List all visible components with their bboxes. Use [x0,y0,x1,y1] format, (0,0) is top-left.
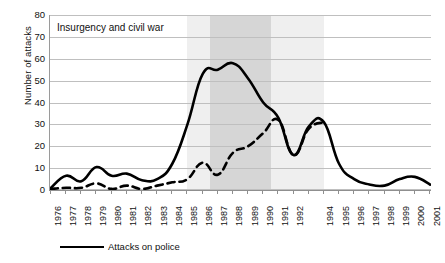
x-axis-tick-label: 1986 [205,206,214,226]
x-axis-tick [353,190,354,194]
series-line-attacks-on-police [51,63,430,188]
x-axis-tick [65,190,66,194]
x-axis-tick-label: 1988 [235,206,244,226]
x-axis-tick-label: 2001 [433,206,442,226]
x-axis-tick [171,190,172,194]
x-axis-tick [126,190,127,194]
y-axis-tick-label: 60 [27,54,45,64]
x-axis-tick-label: 1977 [69,206,78,226]
x-axis-tick [308,190,309,194]
x-axis-tick-label: 1996 [357,206,366,226]
x-axis-tick [232,190,233,194]
y-axis-tick-label: 50 [27,76,45,86]
x-axis-tick [80,190,81,194]
x-axis-tick [217,190,218,194]
legend-item-label: Attacks on police [108,241,180,252]
x-axis-tick-label: 1995 [342,206,351,226]
x-axis-tick-label: 1983 [160,206,169,226]
x-axis-tick-label: 1984 [175,206,184,226]
x-axis-tick-label: 1979 [99,206,108,226]
series-lines [50,15,431,190]
y-axis-tick-label: 20 [27,141,45,151]
y-axis-tick-label: 80 [27,10,45,20]
y-axis-tick-label: 40 [27,98,45,108]
x-axis-tick [384,190,385,194]
x-axis-tick-label: 1982 [144,206,153,226]
x-axis-line [49,190,431,191]
x-axis-tick [202,190,203,194]
legend-line-swatch-icon [60,246,104,248]
y-axis-tick-labels: 80706050403020100 [24,0,45,263]
x-axis-tick [50,190,51,194]
x-axis-tick [141,190,142,194]
x-axis-tick-label: 1985 [190,206,199,226]
x-axis-tick [111,190,112,194]
x-axis-tick-label: 1980 [114,206,123,226]
chart-container: Number of attacks 80706050403020100 Insu… [0,0,445,263]
x-axis-tick-label: 1994 [326,206,335,226]
x-axis-tick-label: 1989 [251,206,260,226]
x-axis-tick [323,190,324,194]
x-axis-tick [399,190,400,194]
x-axis-tick [262,190,263,194]
x-axis-tick-label: 1999 [402,206,411,226]
x-axis-tick-label: 1981 [129,206,138,226]
x-axis-tick-label: 1978 [84,206,93,226]
x-axis-tick-label: 1991 [281,206,290,226]
x-axis-tick-label: 1990 [266,206,275,226]
x-axis-tick [429,190,430,194]
y-axis-tick-label: 10 [27,163,45,173]
plot-area: Insurgency and civil war [49,15,431,190]
x-axis-tick-label: 1997 [372,206,381,226]
x-axis-tick [277,190,278,194]
legend: Attacks on police [60,241,180,252]
x-axis-tick-label: 1976 [54,206,63,226]
x-axis-tick-label: 1987 [220,206,229,226]
x-axis-tick [414,190,415,194]
x-axis-tick [247,190,248,194]
y-axis-tick-label: 0 [27,185,45,195]
plot-title: Insurgency and civil war [57,22,164,33]
x-axis-tick [186,190,187,194]
x-axis-tick [293,190,294,194]
x-axis-tick-label: 1998 [387,206,396,226]
x-axis-tick [95,190,96,194]
x-axis-tick [338,190,339,194]
x-axis-tick-label: 1992 [296,206,305,226]
x-axis-tick [156,190,157,194]
x-axis-tick [368,190,369,194]
y-axis-tick-label: 70 [27,32,45,42]
x-axis-tick-label: 2000 [417,206,426,226]
y-axis-tick-label: 30 [27,119,45,129]
